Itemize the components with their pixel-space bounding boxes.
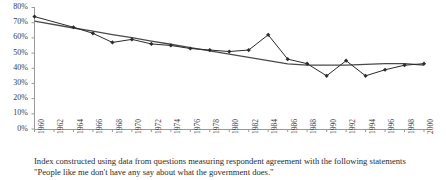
data-point-marker bbox=[32, 15, 36, 19]
x-axis-tick-label: 1986 bbox=[291, 119, 299, 134]
x-axis-tick-label: 1970 bbox=[135, 119, 143, 134]
data-point-marker bbox=[110, 40, 114, 44]
y-axis-tick-label: 80% bbox=[2, 3, 28, 11]
chart-caption: Index constructed using data from questi… bbox=[34, 156, 438, 178]
data-point-marker bbox=[383, 68, 387, 72]
index-series-path bbox=[35, 17, 425, 76]
x-axis-tick-label: 1962 bbox=[57, 119, 65, 134]
x-axis-tick-label: 1976 bbox=[194, 119, 202, 134]
x-axis-tick-label: 1982 bbox=[252, 119, 260, 134]
trendline-path bbox=[35, 21, 425, 65]
y-axis-tick-label: 10% bbox=[2, 109, 28, 117]
y-axis-tick-label: 0% bbox=[2, 125, 28, 133]
x-axis-tick-label: 1966 bbox=[96, 119, 104, 134]
y-axis-tick-label: 30% bbox=[2, 79, 28, 87]
x-axis-tick-label: 1990 bbox=[330, 119, 338, 134]
x-axis-tick-label: 1960 bbox=[38, 119, 46, 134]
x-axis-tick-label: 1988 bbox=[310, 119, 318, 134]
y-axis-tick-label: 20% bbox=[2, 94, 28, 102]
caption-line-1: Index constructed using data from questi… bbox=[34, 156, 438, 167]
x-axis-tick-label: 1978 bbox=[213, 119, 221, 134]
y-axis-tick-label: 60% bbox=[2, 33, 28, 41]
y-axis-tick-label: 50% bbox=[2, 49, 28, 57]
axis-group bbox=[32, 7, 429, 132]
chart-figure: 0%10%20%30%40%50%60%70%80% 1960196219641… bbox=[0, 0, 446, 180]
x-axis-tick-label: 1980 bbox=[232, 119, 240, 134]
x-axis-tick-label: 1994 bbox=[369, 119, 377, 134]
index-series-markers bbox=[32, 15, 426, 78]
x-axis-tick-label: 1984 bbox=[271, 119, 279, 134]
x-axis-tick-label: 1996 bbox=[388, 119, 396, 134]
data-point-marker bbox=[227, 49, 231, 53]
x-axis-tick-label: 1964 bbox=[77, 119, 85, 134]
x-axis-tick-label: 1972 bbox=[155, 119, 163, 134]
line-chart-plot bbox=[0, 0, 446, 180]
data-series-group bbox=[32, 15, 426, 78]
x-axis-tick-label: 1998 bbox=[408, 119, 416, 134]
caption-line-2: "People like me don't have any say about… bbox=[34, 167, 438, 178]
data-point-marker bbox=[149, 42, 153, 46]
x-axis-tick-label: 1992 bbox=[349, 119, 357, 134]
x-axis-ticks bbox=[35, 129, 425, 132]
x-axis-tick-label: 2000 bbox=[427, 119, 435, 134]
x-axis-tick-label: 1974 bbox=[174, 119, 182, 134]
x-axis-tick-label: 1968 bbox=[116, 119, 124, 134]
y-axis-tick-label: 40% bbox=[2, 64, 28, 72]
y-axis-tick-label: 70% bbox=[2, 18, 28, 26]
